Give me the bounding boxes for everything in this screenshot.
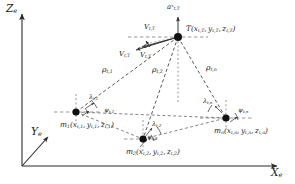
station-point-label-m1: m1(xt,1, yt,1, zt,1) xyxy=(60,121,114,130)
velocity-vector-group xyxy=(136,17,178,50)
angle-arc-lambda-m2 xyxy=(157,127,161,134)
axis-y-line xyxy=(22,137,48,166)
axis-label-x: Xe xyxy=(271,167,282,179)
range-label-mn: ρt,n xyxy=(206,64,217,73)
range-label-m1: ρt,1 xyxy=(102,66,113,75)
diagram-canvas: Ze Ye Xe T(xt,T, yt,T, zt,T) axt,T Vt,T … xyxy=(0,0,295,184)
elevation-angle-label-m1: λt,1 xyxy=(89,94,98,101)
elevation-angle-label-m2: λt,2 xyxy=(152,121,161,128)
target-point-label: T(xt,T, yt,T, zt,T) xyxy=(186,25,235,34)
angle-arc-lambda-mn xyxy=(208,105,212,112)
azimuth-angle-label-m2: ψt,2 xyxy=(147,134,157,141)
station-point-label-m2: m2(xt,2, yt,2, zt,2) xyxy=(126,148,180,157)
azimuth-angle-label-m1: ψt,1 xyxy=(104,107,114,114)
velocity-label-2: Vt,T xyxy=(119,51,130,58)
station-point-label-mn: mn(xt,n, yt,n, zt,n) xyxy=(214,127,268,136)
range-line-mn xyxy=(178,37,226,118)
baseline-m1-mn xyxy=(76,112,226,118)
acceleration-label: axt,T xyxy=(167,4,180,12)
target-node-marker xyxy=(174,33,182,41)
azimuth-angle-label-mn: ψt,n xyxy=(238,107,248,114)
station-node-marker-m2 xyxy=(139,135,146,142)
angle-arc-lambda-m1 xyxy=(92,101,97,108)
velocity-label-3: Vt,T xyxy=(140,52,151,59)
station-node-marker-m1 xyxy=(72,108,79,115)
axis-group xyxy=(22,14,277,166)
axis-label-y: Ye xyxy=(31,126,42,138)
station-node-marker-mn xyxy=(222,114,229,121)
velocity-vector-2 xyxy=(142,37,178,47)
velocity-label-1: Vt,T xyxy=(144,24,155,31)
axis-label-z: Ze xyxy=(6,3,17,15)
elevation-angle-label-mn: λt,n xyxy=(203,98,212,105)
angle-arc-psi-mn xyxy=(235,113,238,120)
range-label-m2: ρt,2 xyxy=(152,66,163,75)
